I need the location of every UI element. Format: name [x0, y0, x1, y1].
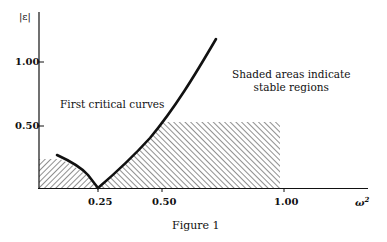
- chart-canvas: [0, 0, 387, 242]
- y-tick-1-00: 1.00: [15, 57, 39, 67]
- figure-caption: Figure 1: [172, 219, 220, 233]
- y-tick-0-50: 0.50: [15, 121, 39, 131]
- shading-note: Shaded areas indicate stable regions: [232, 68, 350, 94]
- shading-note-line1: Shaded areas indicate: [232, 68, 350, 81]
- curve-annotation: First critical curves: [60, 98, 164, 111]
- shaded-region-right: [98, 122, 280, 188]
- x-tick-0-25: 0.25: [88, 197, 112, 207]
- shaded-region-left: [39, 159, 98, 188]
- shading-note-line2: stable regions: [232, 81, 350, 94]
- x-tick-1-00: 1.00: [274, 197, 298, 207]
- y-axis-label: |ε|: [19, 12, 31, 22]
- x-axis-label: ω2: [355, 196, 369, 208]
- x-tick-0-50: 0.50: [152, 197, 176, 207]
